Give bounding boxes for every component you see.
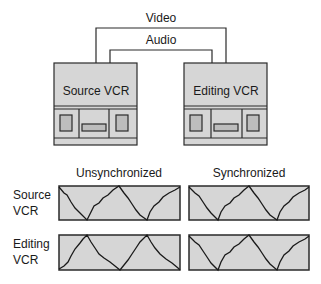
source-vcr-tape-slot	[82, 124, 106, 131]
row-label-editing-line2: VCR	[13, 253, 38, 267]
editing-vcr-left-button	[190, 115, 202, 131]
editing-vcr-label: Editing VCR	[193, 84, 258, 98]
source-vcr-label: Source VCR	[63, 84, 130, 98]
row-label-editing-line1: Editing	[13, 237, 50, 251]
editing-vcr-right-button	[247, 115, 259, 131]
source-vcr-left-button	[60, 115, 72, 131]
column-header-synchronized: Synchronized	[213, 166, 286, 180]
video-label: Video	[146, 11, 176, 25]
editing-vcr-tape-slot	[214, 124, 238, 131]
source-vcr-right-button	[116, 115, 128, 131]
waveform-editing-synchronized	[189, 235, 309, 270]
waveform-source-synchronized	[189, 186, 309, 220]
editing-vcr-device	[184, 63, 267, 145]
row-label-source-line1: Source	[13, 188, 51, 202]
audio-label: Audio	[146, 33, 177, 47]
row-label-source-line2: VCR	[13, 204, 38, 218]
waveform-editing-unsynchronized	[59, 235, 180, 270]
source-vcr-device	[54, 63, 137, 145]
column-header-unsynchronized: Unsynchronized	[76, 166, 162, 180]
waveform-source-unsynchronized	[59, 186, 180, 220]
audio-cable-line	[110, 50, 212, 63]
